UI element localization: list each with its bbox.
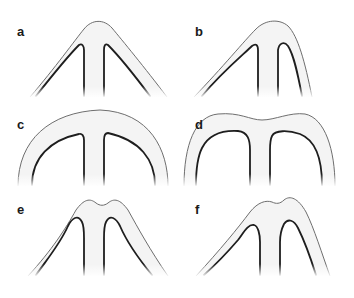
panel-f-shape <box>192 198 337 277</box>
panel-label-e: e <box>17 203 24 216</box>
panel-label-f: f <box>195 203 199 216</box>
panel-e-shape <box>24 200 174 277</box>
panel-label-c: c <box>17 118 24 131</box>
panel-label-a: a <box>17 25 24 38</box>
panel-d-shape <box>180 114 340 187</box>
panel-c-shape <box>14 110 174 187</box>
panel-label-d: d <box>195 118 203 131</box>
arch-diagrams <box>0 0 354 298</box>
panel-label-b: b <box>195 25 203 38</box>
panel-b-shape <box>190 21 320 98</box>
panel-a-shape <box>25 21 175 98</box>
figure: a b c d e f <box>0 0 354 298</box>
